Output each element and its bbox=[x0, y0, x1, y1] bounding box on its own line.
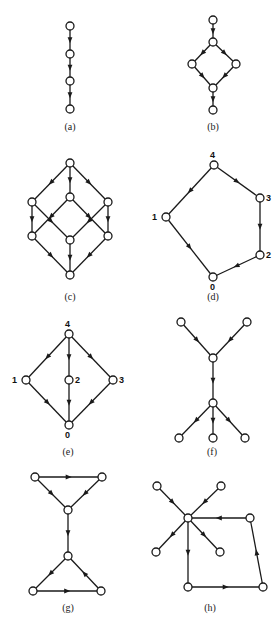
graph-node bbox=[243, 318, 251, 326]
arrowhead-icon bbox=[233, 263, 240, 270]
node-label: 2 bbox=[75, 375, 80, 385]
graph-node bbox=[28, 232, 36, 240]
panel-h bbox=[156, 486, 263, 589]
graph-node bbox=[66, 159, 74, 167]
panel-c bbox=[30, 163, 111, 275]
arrowhead-icon bbox=[216, 516, 222, 521]
arrowhead-icon bbox=[68, 92, 73, 98]
graph-node bbox=[241, 434, 249, 442]
graph-node bbox=[246, 514, 254, 522]
graph-node bbox=[210, 161, 218, 169]
graph-node bbox=[104, 198, 112, 206]
graph-node bbox=[66, 50, 74, 58]
graph-node bbox=[259, 583, 267, 591]
panel-caption: (f) bbox=[207, 446, 217, 458]
arrowhead-icon bbox=[68, 37, 73, 43]
graph-node bbox=[209, 106, 217, 114]
arrowhead-icon bbox=[30, 216, 35, 222]
panel-caption: (a) bbox=[64, 121, 75, 133]
panel-caption: (h) bbox=[204, 602, 216, 614]
graph-node bbox=[29, 587, 37, 595]
panel-caption: (e) bbox=[62, 446, 73, 458]
node-label: 1 bbox=[152, 212, 157, 222]
node-label: 2 bbox=[266, 250, 271, 260]
graph-node bbox=[209, 354, 217, 362]
arrowhead-icon bbox=[211, 96, 216, 102]
graph-node bbox=[64, 552, 72, 560]
graph-node bbox=[28, 198, 36, 206]
graph-node bbox=[65, 376, 73, 384]
graph-node bbox=[97, 587, 105, 595]
graph-node bbox=[216, 548, 224, 556]
graph-node bbox=[66, 77, 74, 85]
graph-node bbox=[209, 38, 217, 46]
arrowhead-icon bbox=[66, 530, 71, 536]
arrowhead-icon bbox=[68, 65, 73, 71]
node-label: 4 bbox=[65, 319, 70, 329]
graph-node bbox=[152, 548, 160, 556]
panel-caption: (g) bbox=[62, 602, 74, 614]
graph-node bbox=[209, 434, 217, 442]
graph-node bbox=[184, 514, 192, 522]
graph-node bbox=[66, 22, 74, 30]
edges-layer bbox=[26, 20, 263, 593]
graph-node bbox=[64, 506, 72, 514]
graph-node bbox=[153, 482, 161, 490]
node-label: 3 bbox=[119, 375, 124, 385]
arrowhead-icon bbox=[106, 216, 111, 222]
graph-node bbox=[66, 105, 74, 113]
graph-node bbox=[217, 482, 225, 490]
graph-figure: (a)(b)(c)43120(d)41230(e)(f)(g)(h) bbox=[0, 0, 280, 623]
arrowhead-icon bbox=[68, 177, 73, 183]
graph-node bbox=[177, 318, 185, 326]
arrowhead-icon bbox=[223, 585, 229, 590]
arrowhead-icon bbox=[66, 475, 72, 480]
panel-f bbox=[179, 322, 247, 438]
graph-node bbox=[209, 273, 217, 281]
arrowhead-icon bbox=[68, 255, 73, 261]
graph-node bbox=[66, 271, 74, 279]
graph-node bbox=[175, 434, 183, 442]
arrowhead-icon bbox=[67, 354, 72, 360]
node-label: 4 bbox=[210, 150, 215, 160]
arrowhead-icon bbox=[211, 28, 216, 34]
graph-node bbox=[66, 193, 74, 201]
graph-node bbox=[209, 84, 217, 92]
graph-node bbox=[65, 421, 73, 429]
panel-b bbox=[192, 20, 236, 110]
graph-node bbox=[188, 60, 196, 68]
panel-d bbox=[166, 165, 262, 277]
graph-node bbox=[232, 60, 240, 68]
graph-node bbox=[162, 213, 170, 221]
graph-node bbox=[104, 232, 112, 240]
panel-g bbox=[33, 475, 102, 594]
arrowhead-icon bbox=[211, 378, 216, 384]
node-label: 1 bbox=[12, 375, 17, 385]
node-label: 3 bbox=[266, 193, 271, 203]
arrowhead-icon bbox=[186, 550, 191, 556]
graph-node bbox=[98, 473, 106, 481]
labels-layer: (a)(b)(c)43120(d)41230(e)(f)(g)(h) bbox=[12, 121, 271, 614]
graph-node bbox=[256, 251, 264, 259]
panel-caption: (d) bbox=[207, 291, 219, 303]
graph-node bbox=[184, 583, 192, 591]
graph-node bbox=[109, 376, 117, 384]
graph-node bbox=[209, 399, 217, 407]
arrowhead-icon bbox=[258, 224, 263, 230]
graph-node bbox=[31, 473, 39, 481]
panel-caption: (c) bbox=[64, 291, 75, 303]
arrowhead-icon bbox=[211, 418, 216, 424]
panel-caption: (b) bbox=[207, 121, 219, 133]
graph-node bbox=[65, 330, 73, 338]
arrowhead-icon bbox=[67, 400, 72, 406]
node-label: 0 bbox=[65, 430, 70, 440]
nodes-layer bbox=[22, 16, 267, 595]
graph-node bbox=[256, 194, 264, 202]
arrowhead-icon bbox=[64, 589, 70, 594]
graph-node bbox=[22, 376, 30, 384]
panel-a bbox=[68, 26, 73, 109]
graph-node bbox=[209, 16, 217, 24]
graph-node bbox=[66, 236, 74, 244]
